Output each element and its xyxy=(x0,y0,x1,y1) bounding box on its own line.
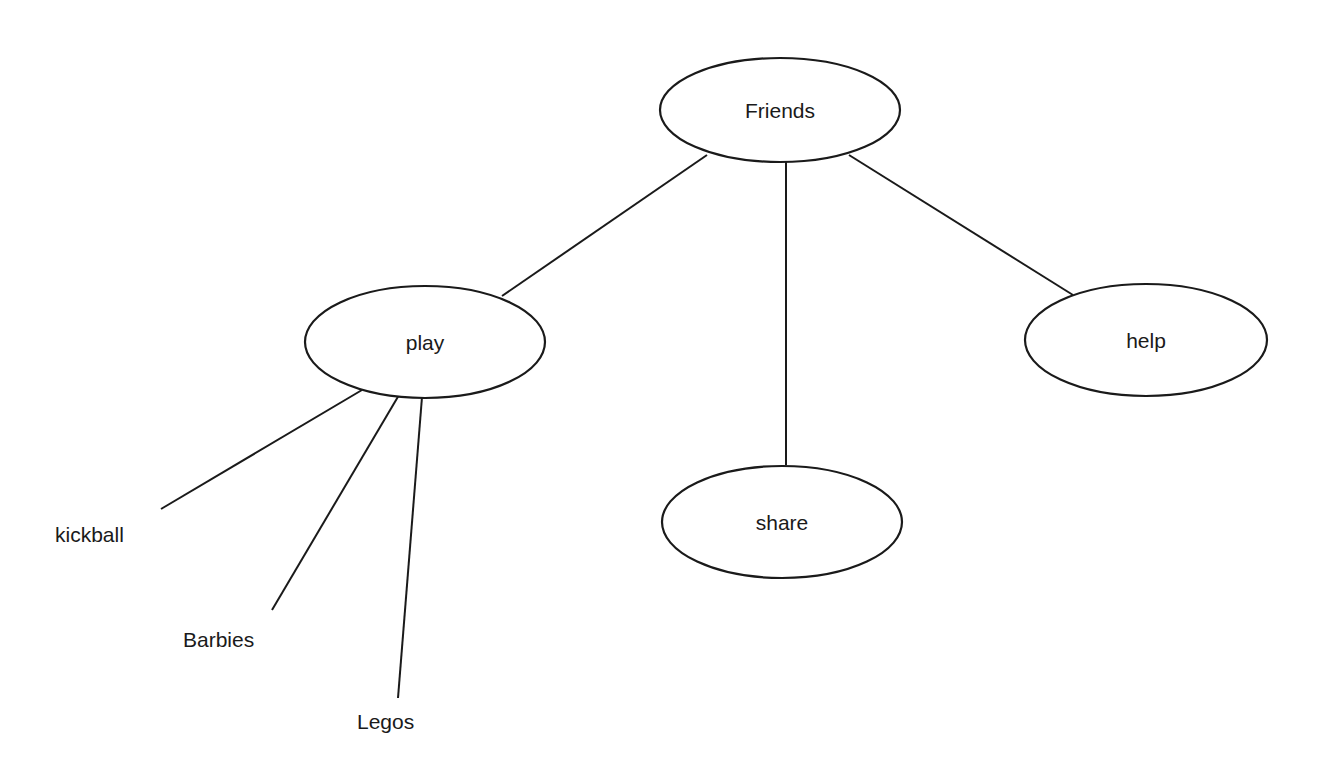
node-play-label: play xyxy=(406,331,445,354)
node-help-label: help xyxy=(1126,329,1166,352)
node-share-label: share xyxy=(756,511,809,534)
node-play: play xyxy=(305,286,545,398)
leaf-legos-label: Legos xyxy=(357,710,414,733)
edge-friends-help xyxy=(849,155,1073,295)
edge-play-barbies xyxy=(272,395,399,610)
leaf-labels: kickball Barbies Legos xyxy=(55,523,414,733)
edge-friends-play xyxy=(502,155,707,296)
edges-layer xyxy=(161,155,1073,698)
node-friends: Friends xyxy=(660,58,900,162)
concept-map-canvas: Friends play share help kickball Barbies… xyxy=(0,0,1331,775)
leaf-kickball-label: kickball xyxy=(55,523,124,546)
edge-play-legos xyxy=(398,397,422,698)
node-friends-label: Friends xyxy=(745,99,815,122)
leaf-barbies-label: Barbies xyxy=(183,628,254,651)
edge-play-kickball xyxy=(161,390,362,509)
node-help: help xyxy=(1025,284,1267,396)
node-share: share xyxy=(662,466,902,578)
